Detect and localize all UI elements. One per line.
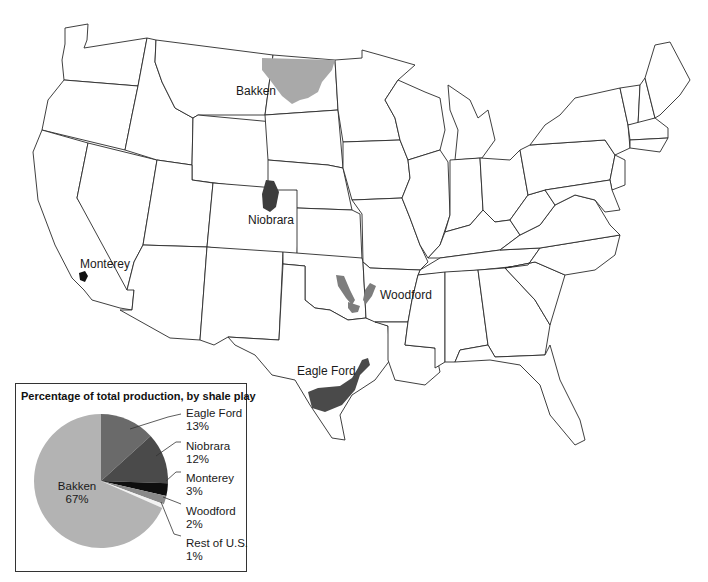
leader-monterey (166, 472, 181, 481)
state-michigan (448, 85, 495, 160)
eagle-ford-label: Eagle Ford (297, 364, 356, 378)
bakken-slice-label: Bakken 67% (52, 480, 102, 506)
state-kansas (297, 208, 362, 260)
leader-eagle-ford (130, 414, 181, 429)
leader-woodford (163, 497, 181, 504)
state-washington (62, 24, 147, 86)
niobrara-label: Niobrara (248, 213, 294, 227)
state-south-dakota (265, 110, 343, 168)
state-maine (645, 42, 690, 118)
legend-rest-of-us: Rest of U.S. 1% (186, 537, 248, 563)
state-florida (455, 345, 585, 445)
legend-niobrara: Niobrara 12% (186, 440, 230, 466)
legend-eagle-ford: Eagle Ford 13% (186, 407, 242, 433)
leader-rest (161, 502, 181, 536)
pie-chart-inset: Percentage of total production, by shale… (15, 383, 247, 572)
bakken-label: Bakken (236, 84, 276, 98)
monterey-label: Monterey (80, 257, 130, 271)
woodford-label: Woodford (380, 288, 432, 302)
legend-monterey: Monterey 3% (186, 472, 234, 498)
state-wyoming (192, 115, 273, 190)
legend-woodford: Woodford 2% (186, 505, 236, 531)
state-connecticut-ri (630, 138, 668, 152)
state-new-mexico (200, 247, 283, 345)
state-iowa (343, 140, 410, 200)
pie-title: Percentage of total production, by shale… (21, 390, 256, 402)
